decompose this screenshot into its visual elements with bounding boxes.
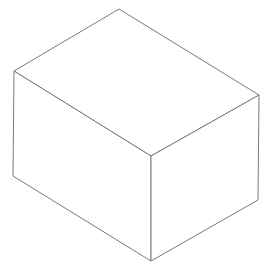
isometric-box-drawing bbox=[0, 0, 269, 275]
diagram-canvas bbox=[0, 0, 269, 275]
